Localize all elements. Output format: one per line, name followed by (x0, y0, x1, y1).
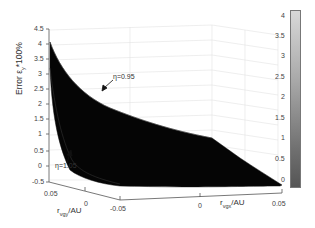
z-tick: 2 (38, 100, 42, 107)
z-tick: 0.5 (34, 147, 44, 154)
x-axis-label: rvgx/AU (220, 198, 245, 209)
z-tick: 4.5 (34, 25, 44, 32)
annotation-eta-095: η=0.95 (113, 73, 135, 80)
y-axis-label: rvgy/AU (57, 206, 82, 217)
colorbar-tick: 1.5 (275, 114, 285, 121)
x-tick: 0.05 (272, 200, 286, 207)
z-tick: 3.5 (34, 55, 44, 62)
y-tick: 0 (84, 200, 88, 207)
z-tick: 4 (38, 40, 42, 47)
colorbar-tick: 0 (281, 176, 285, 183)
y-tick: 0.05 (44, 190, 58, 197)
z-tick: 3 (38, 70, 42, 77)
z-tick: 1 (38, 130, 42, 137)
z-tick: 2.5 (34, 85, 44, 92)
colorbar-tick: 3.5 (275, 32, 285, 39)
colorbar (290, 10, 301, 188)
colorbar-tick: 2.5 (275, 73, 285, 80)
z-tick: 1.5 (34, 115, 44, 122)
colorbar-tick: 3 (281, 52, 285, 59)
x-tick: 0 (198, 202, 202, 209)
surface-plot-figure: 4.5 4 3.5 3 2.5 2 1.5 1 0.5 0 -0.5 0.05 … (0, 0, 315, 228)
z-tick: 0 (38, 162, 42, 169)
colorbar-tick: 4 (281, 12, 285, 19)
y-tick: -0.05 (110, 205, 126, 212)
z-tick: -0.5 (32, 178, 44, 185)
z-axis (46, 29, 49, 182)
colorbar-tick: 1 (281, 134, 285, 141)
colorbar-tick: 0.5 (275, 155, 285, 162)
annotation-eta-105: η=1.05 (55, 162, 77, 169)
error-surface (50, 42, 282, 187)
colorbar-tick: 2 (281, 93, 285, 100)
z-axis-label: Error εy*100% (14, 42, 26, 95)
